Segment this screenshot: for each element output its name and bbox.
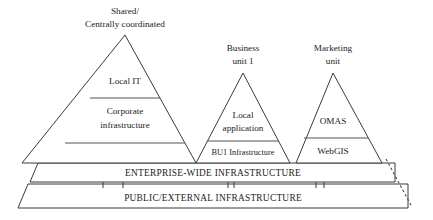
business-unit-pyramid-caption: Business unit 1	[227, 43, 260, 66]
caption-business-line2: unit 1	[232, 56, 254, 66]
business-unit-pyramid: Local application BU1 Infrastructure	[196, 73, 290, 163]
infrastructure-pyramid-diagram: PUBLIC/EXTERNAL INFRASTRUCTURE ENTERPRIS…	[0, 0, 433, 220]
shared-pyramid-caption: Shared/ Centrally coordinated	[85, 6, 165, 29]
tier-bu1-infrastructure-label: BU1 Infrastructure	[212, 148, 275, 157]
tier-local-application-line1: Local	[233, 110, 254, 120]
tier-corporate-infrastructure-line1: Corporate	[107, 106, 144, 116]
band-enterprise-wide-infrastructure: ENTERPRISE-WIDE INFRASTRUCTURE	[30, 163, 395, 182]
band-public-external-infrastructure: PUBLIC/EXTERNAL INFRASTRUCTURE	[18, 184, 408, 208]
band-public-external-label: PUBLIC/EXTERNAL INFRASTRUCTURE	[124, 193, 302, 203]
caption-shared-line2: Centrally coordinated	[85, 19, 165, 29]
band-enterprise-wide-label: ENTERPRISE-WIDE INFRASTRUCTURE	[125, 168, 301, 178]
marketing-unit-pyramid-caption: Marketing unit	[314, 43, 353, 66]
tier-local-application-line2: application	[223, 123, 264, 133]
open-ended-right-edge-dashed	[386, 159, 412, 207]
caption-business-line1: Business	[227, 43, 260, 53]
tier-local-it-label: Local IT	[109, 76, 141, 86]
tier-corporate-infrastructure-line2: infrastructure	[100, 120, 150, 130]
diagram-root: PUBLIC/EXTERNAL INFRASTRUCTURE ENTERPRIS…	[0, 0, 433, 220]
caption-marketing-line1: Marketing	[314, 43, 353, 53]
tier-webgis-label: WebGIS	[317, 146, 348, 156]
caption-shared-line1: Shared/	[111, 6, 140, 16]
caption-marketing-line2: unit	[326, 56, 341, 66]
connector-ticks	[103, 182, 324, 188]
tier-omas-label: OMAS	[320, 116, 347, 126]
marketing-unit-pyramid: OMAS WebGIS	[296, 73, 382, 163]
shared-pyramid: Local IT Corporate infrastructure	[22, 35, 196, 163]
